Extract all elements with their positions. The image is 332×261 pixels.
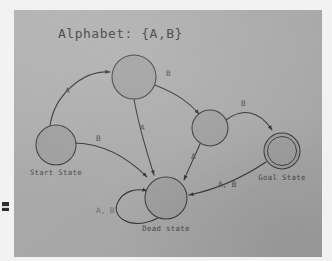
transition-label-start-to-top: A [65,86,70,95]
transition-start-to-dead [75,143,147,177]
state-label-start: Start State [30,168,82,177]
state-right [192,110,228,146]
transition-right-to-goal [226,113,272,130]
state-top [112,55,156,99]
state-machine-diagram: Alphabet: {A,B} A B B A B A A, B [14,10,322,257]
photographed-page: Alphabet: {A,B} A B B A B A A, B [14,10,322,257]
transition-start-to-top [50,72,110,126]
transition-label-right-to-goal: B [241,99,246,108]
transition-label-top-to-dead: A [140,123,145,132]
transition-top-to-right [155,85,199,114]
transition-label-goal-to-dead: A, B [218,180,237,189]
state-goal-inner-ring [268,137,297,166]
state-label-dead: Dead state [142,224,190,233]
screenshot-root: Alphabet: {A,B} A B B A B A A, B [0,0,332,261]
alphabet-title: Alphabet: {A,B} [58,26,183,41]
transition-top-to-dead [134,99,154,175]
state-start [36,125,76,165]
state-dead [145,177,187,219]
transition-label-right-to-dead: A [191,152,196,161]
transition-label-dead-self-loop: A, B [96,206,115,215]
transition-label-top-to-right: B [166,69,171,78]
transition-label-start-to-dead: B [96,134,101,143]
film-edge-marker [2,202,9,211]
transition-right-to-dead [184,144,200,180]
transition-goal-to-dead [189,162,266,195]
state-label-goal: Goal State [258,173,306,182]
